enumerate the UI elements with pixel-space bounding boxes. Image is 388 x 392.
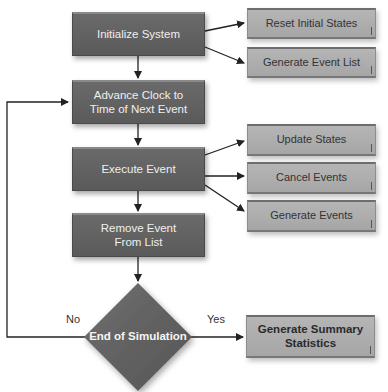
update-states-box: Update States <box>247 124 376 156</box>
remove-event-box: Remove Event From List <box>72 213 205 257</box>
advance-clock-label-line2: Time of Next Event <box>90 103 187 117</box>
remove-event-label-line2: From List <box>115 236 163 250</box>
generate-event-list-label: Generate Event List <box>263 56 360 69</box>
generate-summary-statistics-box: Generate Summary Statistics <box>246 315 375 358</box>
summary-label-line1: Generate Summary <box>258 323 363 337</box>
generate-events-box: Generate Events <box>247 200 376 232</box>
update-states-label: Update States <box>277 133 347 146</box>
summary-label-line2: Statistics <box>285 337 336 351</box>
yes-branch-label: Yes <box>207 313 225 325</box>
advance-clock-box: Advance Clock to Time of Next Event <box>72 80 205 124</box>
advance-clock-label-line1: Advance Clock to <box>94 89 184 103</box>
reset-initial-states-label: Reset Initial States <box>266 17 358 30</box>
generate-events-label: Generate Events <box>270 209 353 222</box>
execute-event-label: Execute Event <box>101 163 175 177</box>
end-of-simulation-label: End of Simulation <box>88 330 188 342</box>
remove-event-label-line1: Remove Event <box>101 222 176 236</box>
cancel-events-box: Cancel Events <box>247 162 376 194</box>
initialize-system-box: Initialize System <box>72 12 205 56</box>
generate-event-list-box: Generate Event List <box>247 47 376 78</box>
initialize-system-label: Initialize System <box>97 28 180 42</box>
execute-event-box: Execute Event <box>72 147 205 191</box>
reset-initial-states-box: Reset Initial States <box>247 8 376 39</box>
cancel-events-label: Cancel Events <box>276 171 347 184</box>
no-branch-label: No <box>66 313 80 325</box>
